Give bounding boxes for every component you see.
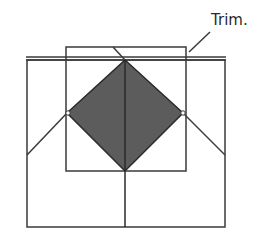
- trim-diagram: Trim.: [0, 0, 260, 232]
- trim-leader-line: [189, 32, 210, 52]
- diagram-canvas: [0, 0, 260, 232]
- trim-slash-line: [113, 47, 125, 60]
- right-diagonal-line: [183, 113, 225, 155]
- trim-label: Trim.: [211, 11, 248, 29]
- right-vertex-marker: [181, 111, 185, 115]
- left-vertex-marker: [66, 111, 70, 115]
- left-diagonal-line: [27, 113, 67, 155]
